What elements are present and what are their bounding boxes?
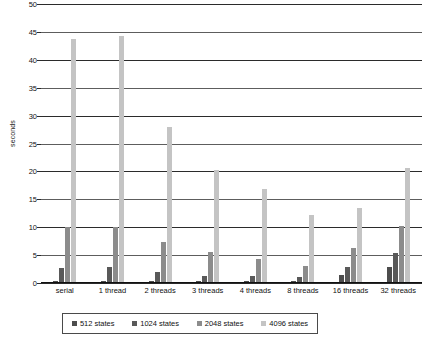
bar xyxy=(303,266,308,283)
legend-item[interactable]: 1024 states xyxy=(132,319,179,328)
bar xyxy=(167,127,172,283)
legend-item[interactable]: 512 states xyxy=(72,319,115,328)
y-axis-title: seconds xyxy=(9,104,16,164)
x-axis-label: 2 threads xyxy=(136,286,184,295)
x-axis-label: 3 threads xyxy=(184,286,232,295)
bar-group xyxy=(232,4,280,283)
bar xyxy=(208,252,213,283)
plot-area: 05101520253035404550 xyxy=(41,4,422,283)
bar xyxy=(113,227,118,283)
bar xyxy=(309,215,314,283)
legend-item[interactable]: 2048 states xyxy=(197,319,244,328)
bar xyxy=(345,267,350,283)
x-axis-labels: serial1 thread2 threads3 threads4 thread… xyxy=(41,286,422,295)
legend-label: 512 states xyxy=(80,319,115,328)
bars xyxy=(244,4,267,283)
x-axis-label: 1 thread xyxy=(89,286,137,295)
legend-label: 2048 states xyxy=(205,319,244,328)
bar xyxy=(405,168,410,284)
gridline: 0 xyxy=(41,283,422,284)
x-axis-label: 4 threads xyxy=(232,286,280,295)
bar-group xyxy=(41,4,89,283)
bar-chart: seconds 05101520253035404550 serial1 thr… xyxy=(0,0,424,339)
bar xyxy=(71,39,76,283)
x-axis-label: serial xyxy=(41,286,89,295)
bar-group xyxy=(374,4,422,283)
legend-label: 1024 states xyxy=(140,319,179,328)
bars xyxy=(53,4,76,283)
bars xyxy=(291,4,314,283)
y-tick-label: 10 xyxy=(29,223,37,232)
chart-legend: 512 states1024 states2048 states4096 sta… xyxy=(62,313,318,334)
bar xyxy=(59,268,64,283)
legend-swatch-icon xyxy=(132,321,137,326)
bar xyxy=(393,253,398,283)
y-tick-label: 45 xyxy=(29,27,37,36)
legend-label: 4096 states xyxy=(269,319,308,328)
y-tick-label: 50 xyxy=(29,0,37,9)
y-tick-label: 25 xyxy=(29,139,37,148)
bar xyxy=(107,267,112,283)
bar-group xyxy=(279,4,327,283)
y-tick-label: 30 xyxy=(29,111,37,120)
bar xyxy=(119,36,124,283)
y-tick-label: 40 xyxy=(29,55,37,64)
y-tick-label: 35 xyxy=(29,83,37,92)
bars xyxy=(387,4,410,283)
y-tick-mark xyxy=(37,283,41,284)
legend-swatch-icon xyxy=(197,321,202,326)
x-axis-label: 16 threads xyxy=(327,286,375,295)
bar xyxy=(357,208,362,283)
legend-swatch-icon xyxy=(72,321,77,326)
bar xyxy=(387,267,392,283)
bars xyxy=(196,4,219,283)
bar-groups xyxy=(41,4,422,283)
legend-swatch-icon xyxy=(261,321,266,326)
bar xyxy=(214,170,219,283)
bar xyxy=(262,189,267,283)
bar-group xyxy=(136,4,184,283)
bar xyxy=(161,242,166,283)
legend-item[interactable]: 4096 states xyxy=(261,319,308,328)
bar xyxy=(65,227,70,283)
y-tick-label: 20 xyxy=(29,167,37,176)
bars xyxy=(339,4,362,283)
bar-group xyxy=(184,4,232,283)
bar xyxy=(351,248,356,283)
bar xyxy=(399,226,404,283)
x-axis-label: 8 threads xyxy=(279,286,327,295)
y-tick-label: 15 xyxy=(29,195,37,204)
bar-group xyxy=(327,4,375,283)
bars xyxy=(101,4,124,283)
x-axis-line xyxy=(41,282,422,283)
x-axis-label: 32 threads xyxy=(374,286,422,295)
bars xyxy=(149,4,172,283)
bar xyxy=(256,259,261,283)
bar-group xyxy=(89,4,137,283)
